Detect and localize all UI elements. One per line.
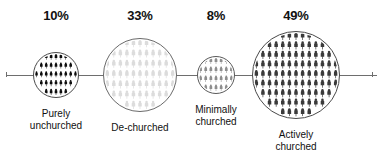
people-pictogram-fill bbox=[34, 53, 78, 97]
axis-left-cap bbox=[6, 72, 7, 77]
bubble-circle[interactable] bbox=[252, 31, 340, 119]
chart-group-purely-unchurched[interactable]: 10% Purely unchurched bbox=[16, 0, 96, 158]
chart-group-de-churched[interactable]: 33% De-churched bbox=[97, 0, 183, 158]
bubble-circle[interactable] bbox=[33, 52, 79, 98]
percent-label: 33% bbox=[97, 8, 183, 23]
people-pictogram-fill bbox=[253, 32, 339, 118]
chart-group-actively-churched[interactable]: 49% Actively churched bbox=[246, 0, 346, 158]
chart-group-minimally-churched[interactable]: 8% Minimally churched bbox=[176, 0, 256, 158]
percent-label: 8% bbox=[176, 8, 256, 23]
category-label: De-churched bbox=[97, 122, 183, 134]
percent-label: 10% bbox=[16, 8, 96, 23]
category-label: Minimally churched bbox=[176, 104, 256, 127]
infographic-canvas: 10% Purely unchurched 33% De-churched 8%… bbox=[0, 0, 383, 158]
people-pictogram-fill bbox=[198, 57, 234, 93]
category-label: Purely unchurched bbox=[16, 108, 96, 131]
percent-label: 49% bbox=[246, 8, 346, 23]
bubble-circle[interactable] bbox=[197, 56, 235, 94]
axis-right-cap bbox=[372, 72, 373, 77]
bubble-circle[interactable] bbox=[103, 38, 177, 112]
category-label: Actively churched bbox=[246, 129, 346, 152]
people-pictogram-fill bbox=[104, 39, 176, 111]
